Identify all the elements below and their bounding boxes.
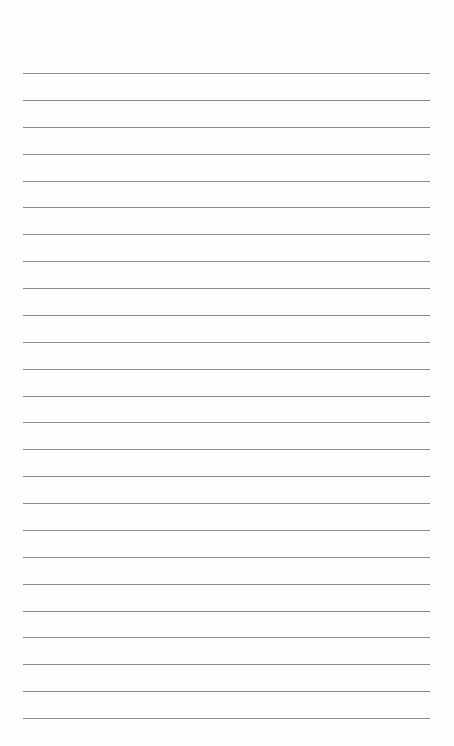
ruled-line (23, 234, 430, 235)
ruled-line (23, 611, 430, 612)
ruled-line (23, 503, 430, 504)
ruled-line (23, 557, 430, 558)
ruled-line (23, 154, 430, 155)
ruled-line (23, 127, 430, 128)
ruled-line (23, 396, 430, 397)
lined-paper-page (0, 0, 454, 746)
ruled-line (23, 181, 430, 182)
ruled-line (23, 691, 430, 692)
ruled-line (23, 422, 430, 423)
ruled-line (23, 584, 430, 585)
ruled-line (23, 342, 430, 343)
ruled-line (23, 637, 430, 638)
ruled-line (23, 73, 430, 74)
ruled-line (23, 315, 430, 316)
ruled-line (23, 100, 430, 101)
ruled-line (23, 449, 430, 450)
ruled-line (23, 530, 430, 531)
ruled-line (23, 369, 430, 370)
ruled-line (23, 261, 430, 262)
ruled-line (23, 664, 430, 665)
ruled-line (23, 207, 430, 208)
ruled-line (23, 718, 430, 719)
ruled-line (23, 288, 430, 289)
ruled-line (23, 476, 430, 477)
